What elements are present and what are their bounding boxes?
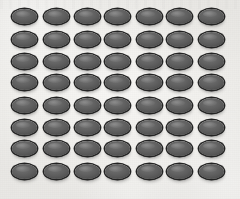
disc-face [167, 54, 192, 69]
elliptical-disc [75, 141, 100, 156]
disc-face [44, 32, 69, 47]
elliptical-disc [105, 120, 130, 135]
disc-face [137, 164, 162, 179]
elliptical-disc [12, 9, 37, 24]
disc-face [105, 120, 130, 135]
elliptical-disc [137, 164, 162, 179]
elliptical-disc [105, 141, 130, 156]
disc-face [44, 75, 69, 90]
elliptical-disc [167, 9, 192, 24]
elliptical-disc [12, 32, 37, 47]
elliptical-disc [199, 141, 224, 156]
elliptical-disc [199, 32, 224, 47]
elliptical-disc [137, 75, 162, 90]
elliptical-disc-grid [0, 0, 240, 199]
disc-face [12, 32, 37, 47]
elliptical-disc [12, 98, 37, 113]
elliptical-disc [44, 120, 69, 135]
elliptical-disc [167, 75, 192, 90]
disc-face [75, 32, 100, 47]
elliptical-disc [137, 98, 162, 113]
elliptical-disc [137, 120, 162, 135]
elliptical-disc [105, 164, 130, 179]
elliptical-disc [167, 164, 192, 179]
elliptical-disc [75, 9, 100, 24]
disc-face [44, 9, 69, 24]
elliptical-disc [44, 98, 69, 113]
elliptical-disc [75, 32, 100, 47]
disc-face [105, 98, 130, 113]
elliptical-disc [199, 98, 224, 113]
disc-face [44, 54, 69, 69]
elliptical-disc [12, 54, 37, 69]
disc-face [105, 9, 130, 24]
elliptical-disc [199, 164, 224, 179]
elliptical-disc [75, 54, 100, 69]
disc-face [12, 120, 37, 135]
disc-face [12, 141, 37, 156]
disc-face [105, 54, 130, 69]
disc-face [199, 75, 224, 90]
elliptical-disc [167, 32, 192, 47]
elliptical-disc [44, 164, 69, 179]
disc-face [199, 120, 224, 135]
elliptical-disc [199, 9, 224, 24]
elliptical-disc [12, 75, 37, 90]
disc-face [167, 75, 192, 90]
disc-face [137, 9, 162, 24]
elliptical-disc [12, 164, 37, 179]
disc-face [105, 75, 130, 90]
disc-face [44, 120, 69, 135]
elliptical-disc [199, 54, 224, 69]
elliptical-disc [105, 9, 130, 24]
elliptical-disc [167, 54, 192, 69]
elliptical-disc [167, 98, 192, 113]
disc-face [75, 164, 100, 179]
elliptical-disc [44, 32, 69, 47]
disc-face [75, 54, 100, 69]
elliptical-disc [137, 32, 162, 47]
elliptical-disc [199, 75, 224, 90]
disc-face [12, 9, 37, 24]
elliptical-disc [44, 9, 69, 24]
elliptical-disc [44, 54, 69, 69]
disc-face [75, 98, 100, 113]
disc-face [12, 164, 37, 179]
disc-face [199, 98, 224, 113]
disc-face [105, 32, 130, 47]
disc-face [199, 32, 224, 47]
disc-face [137, 120, 162, 135]
disc-face [199, 141, 224, 156]
elliptical-disc [137, 9, 162, 24]
elliptical-disc [105, 32, 130, 47]
disc-face [75, 9, 100, 24]
disc-face [137, 141, 162, 156]
disc-face [44, 164, 69, 179]
elliptical-disc [75, 75, 100, 90]
disc-face [167, 9, 192, 24]
elliptical-disc [105, 98, 130, 113]
elliptical-disc [137, 54, 162, 69]
disc-face [137, 54, 162, 69]
disc-face [167, 141, 192, 156]
elliptical-disc [12, 141, 37, 156]
elliptical-disc [167, 141, 192, 156]
elliptical-disc [105, 75, 130, 90]
disc-face [44, 141, 69, 156]
disc-face [75, 141, 100, 156]
elliptical-disc [105, 54, 130, 69]
elliptical-disc [75, 98, 100, 113]
disc-face [167, 120, 192, 135]
disc-face [137, 32, 162, 47]
elliptical-disc [12, 120, 37, 135]
disc-face [167, 98, 192, 113]
disc-face [44, 98, 69, 113]
disc-face [199, 164, 224, 179]
elliptical-disc [44, 141, 69, 156]
disc-face [199, 54, 224, 69]
disc-face [199, 9, 224, 24]
disc-face [105, 141, 130, 156]
disc-face [167, 164, 192, 179]
elliptical-disc [199, 120, 224, 135]
disc-face [105, 164, 130, 179]
